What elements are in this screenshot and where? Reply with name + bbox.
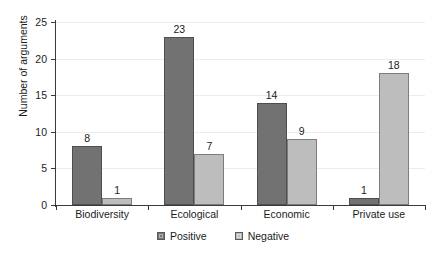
- bar-ecological-positive: [164, 37, 194, 205]
- x-category-label-ecological: Ecological: [170, 209, 218, 220]
- x-tick-mark: [333, 205, 334, 210]
- bar-private-use-positive: [349, 198, 379, 205]
- bar-value-label: 9: [299, 126, 305, 137]
- x-tick-mark: [56, 205, 57, 210]
- bar-value-label: 1: [114, 185, 120, 196]
- y-tick-mark-10: [51, 132, 55, 133]
- x-tick-mark: [425, 205, 426, 210]
- x-category-label-biodiversity: Biodiversity: [75, 209, 129, 220]
- y-tick-mark-15: [51, 95, 55, 96]
- bar-value-label: 18: [388, 60, 400, 71]
- gridline-5: [56, 168, 425, 169]
- x-tick-mark: [241, 205, 242, 210]
- bar-value-label: 8: [84, 133, 90, 144]
- legend-swatch-icon: [235, 232, 243, 240]
- legend-label: Negative: [248, 231, 289, 242]
- y-tick-label-25: 25: [35, 17, 47, 28]
- legend-item-negative[interactable]: Negative: [235, 231, 289, 242]
- bar-biodiversity-negative: [102, 198, 132, 205]
- y-tick-mark-20: [51, 59, 55, 60]
- bar-private-use-negative: [379, 73, 409, 205]
- plot-area: [56, 22, 425, 205]
- y-tick-label-20: 20: [35, 53, 47, 64]
- y-tick-label-15: 15: [35, 90, 47, 101]
- y-tick-mark-5: [51, 168, 55, 169]
- y-tick-mark-25: [51, 22, 55, 23]
- x-category-label-economic: Economic: [264, 209, 310, 220]
- bar-chart: Number of arguments 0510152025 812371491…: [0, 0, 446, 258]
- bar-value-label: 7: [206, 141, 212, 152]
- bar-biodiversity-positive: [72, 146, 102, 205]
- y-tick-label-10: 10: [35, 127, 47, 138]
- bar-economic-positive: [257, 103, 287, 205]
- bar-economic-negative: [287, 139, 317, 205]
- gridline-15: [56, 95, 425, 96]
- y-axis-title: Number of arguments: [17, 0, 29, 141]
- x-category-label-private-use: Private use: [353, 209, 406, 220]
- gridline-10: [56, 132, 425, 133]
- bar-value-label: 23: [174, 24, 186, 35]
- legend-swatch-icon: [157, 232, 165, 240]
- x-tick-mark: [148, 205, 149, 210]
- y-tick-label-0: 0: [41, 200, 47, 211]
- gridline-20: [56, 59, 425, 60]
- chart-legend: PositiveNegative: [0, 231, 446, 242]
- legend-label: Positive: [170, 231, 207, 242]
- gridline-25: [56, 22, 425, 23]
- y-tick-label-5: 5: [41, 163, 47, 174]
- bar-value-label: 1: [361, 185, 367, 196]
- bar-ecological-negative: [194, 154, 224, 205]
- y-tick-mark-0: [51, 205, 55, 206]
- legend-item-positive[interactable]: Positive: [157, 231, 207, 242]
- bar-value-label: 14: [266, 90, 278, 101]
